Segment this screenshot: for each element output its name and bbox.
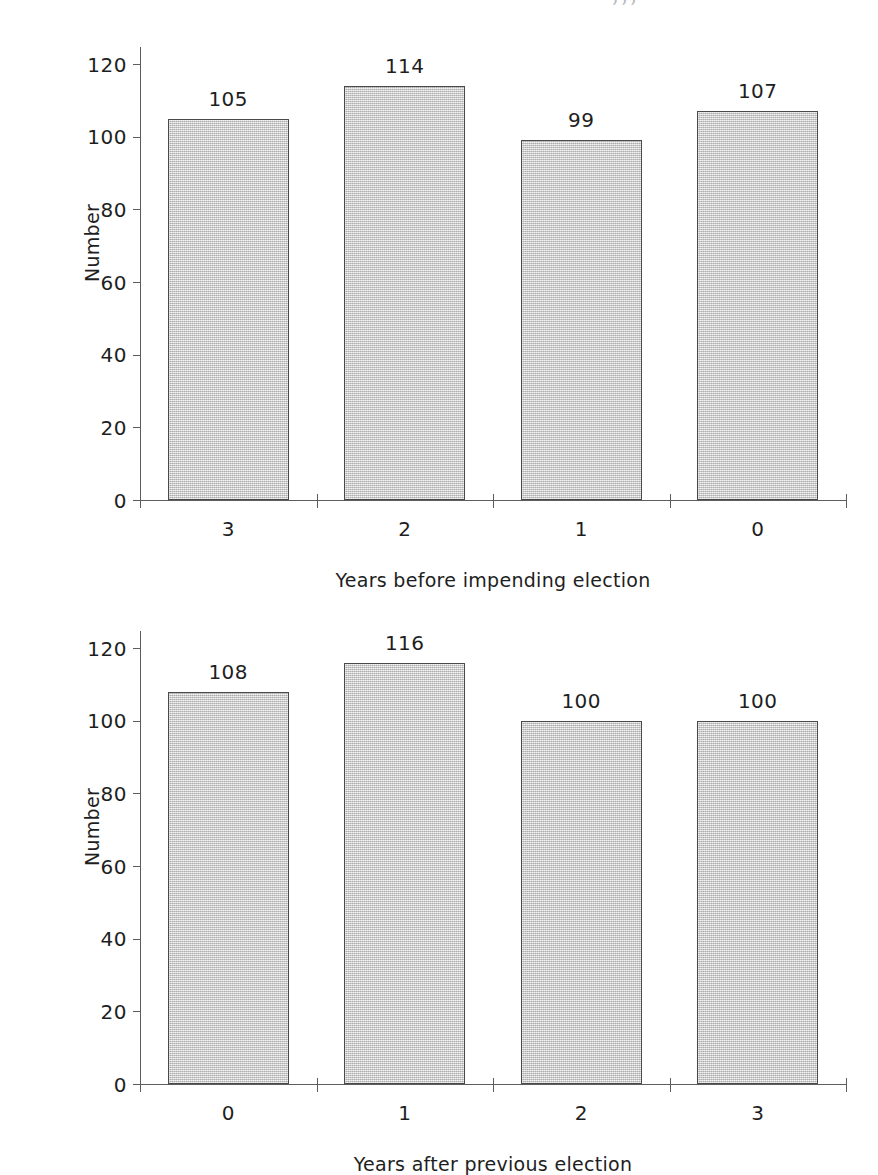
- x-category-label: 2: [317, 517, 494, 541]
- y-tick-label: 60: [101, 271, 127, 295]
- bar-value-label: 107: [738, 79, 778, 103]
- y-tick-mark: [133, 939, 141, 940]
- y-tick-mark: [133, 1011, 141, 1012]
- y-tick-label: 40: [101, 343, 127, 367]
- x-tick-mark-chart-1: [493, 494, 494, 508]
- y-tick-label: 100: [87, 709, 127, 733]
- bar-value-label: 108: [208, 660, 248, 684]
- bar-value-label: 100: [561, 689, 601, 713]
- x-tick-mark-chart-1: [670, 494, 671, 508]
- y-tick-chart-1: 60: [140, 282, 141, 283]
- y-axis-line-chart-2: [140, 631, 141, 1085]
- bar-2-chart-1: 114: [344, 86, 465, 500]
- y-tick-label: 20: [101, 416, 127, 440]
- y-tick-mark: [133, 648, 141, 649]
- y-axis-line-chart-1: [140, 47, 141, 501]
- y-tick-mark: [133, 427, 141, 428]
- y-tick-label: 120: [87, 53, 127, 77]
- y-tick-chart-1: 40: [140, 355, 141, 356]
- y-tick-chart-2: 20: [140, 1011, 141, 1012]
- y-tick-chart-1: 80: [140, 209, 141, 210]
- bar-0-chart-1: 107: [697, 111, 818, 500]
- y-tick-label: 100: [87, 125, 127, 149]
- y-tick-label: 60: [101, 855, 127, 879]
- bar-3-chart-2: 100: [697, 721, 818, 1084]
- y-tick-label: 80: [101, 198, 127, 222]
- y-tick-label: 20: [101, 1000, 127, 1024]
- y-tick-chart-2: 60: [140, 866, 141, 867]
- scan-top-cutoff-text: ‚‚‚: [0, 0, 878, 13]
- bar-1-chart-2: 116: [344, 663, 465, 1084]
- y-tick-mark: [133, 355, 141, 356]
- x-tick-mark-chart-2: [670, 1078, 671, 1092]
- y-tick-label: 40: [101, 927, 127, 951]
- x-category-label: 0: [670, 517, 847, 541]
- y-tick-label: 0: [114, 1073, 127, 1097]
- y-tick-chart-2: 120: [140, 648, 141, 649]
- x-category-label: 3: [670, 1101, 847, 1125]
- y-tick-mark: [133, 721, 141, 722]
- bar-1-chart-1: 99: [521, 140, 642, 500]
- chart-years-after-previous-election: Number Years after previous election 020…: [0, 600, 878, 1175]
- x-category-label: 1: [317, 1101, 494, 1125]
- x-tick-mark-chart-1: [846, 494, 847, 508]
- plot-area-chart-1: Number Years before impending election 0…: [140, 47, 846, 517]
- cutoff-title-remnant: ‚‚‚: [612, 0, 640, 7]
- y-tick-mark: [133, 209, 141, 210]
- bar-value-label: 105: [208, 87, 248, 111]
- bar-3-chart-1: 105: [168, 119, 289, 501]
- x-tick-mark-chart-2: [140, 1078, 141, 1092]
- y-tick-mark: [133, 137, 141, 138]
- x-tick-mark-chart-1: [140, 494, 141, 508]
- bar-value-label: 114: [385, 54, 425, 78]
- x-tick-mark-chart-1: [317, 494, 318, 508]
- x-category-label: 3: [140, 517, 317, 541]
- y-tick-chart-2: 80: [140, 793, 141, 794]
- y-tick-chart-2: 100: [140, 721, 141, 722]
- y-tick-label: 0: [114, 489, 127, 513]
- x-axis-title-chart-1: Years before impending election: [140, 569, 846, 591]
- y-tick-chart-1: 20: [140, 427, 141, 428]
- x-axis-title-chart-2: Years after previous election: [140, 1153, 846, 1175]
- bar-value-label: 100: [738, 689, 778, 713]
- y-tick-label: 80: [101, 782, 127, 806]
- y-tick-chart-2: 40: [140, 939, 141, 940]
- x-tick-mark-chart-2: [493, 1078, 494, 1092]
- x-category-label: 2: [493, 1101, 670, 1125]
- x-tick-mark-chart-2: [846, 1078, 847, 1092]
- bar-2-chart-2: 100: [521, 721, 642, 1084]
- bar-value-label: 99: [568, 108, 594, 132]
- bar-0-chart-2: 108: [168, 692, 289, 1084]
- y-tick-label: 120: [87, 637, 127, 661]
- y-tick-mark: [133, 866, 141, 867]
- chart-years-before-impending-election: Number Years before impending election 0…: [0, 16, 878, 596]
- x-category-label: 0: [140, 1101, 317, 1125]
- x-category-label: 1: [493, 517, 670, 541]
- y-tick-mark: [133, 64, 141, 65]
- x-tick-mark-chart-2: [317, 1078, 318, 1092]
- bar-value-label: 116: [385, 631, 425, 655]
- y-tick-chart-1: 100: [140, 137, 141, 138]
- plot-area-chart-2: Number Years after previous election 020…: [140, 631, 846, 1101]
- y-tick-chart-1: 120: [140, 64, 141, 65]
- y-tick-mark: [133, 282, 141, 283]
- y-tick-mark: [133, 793, 141, 794]
